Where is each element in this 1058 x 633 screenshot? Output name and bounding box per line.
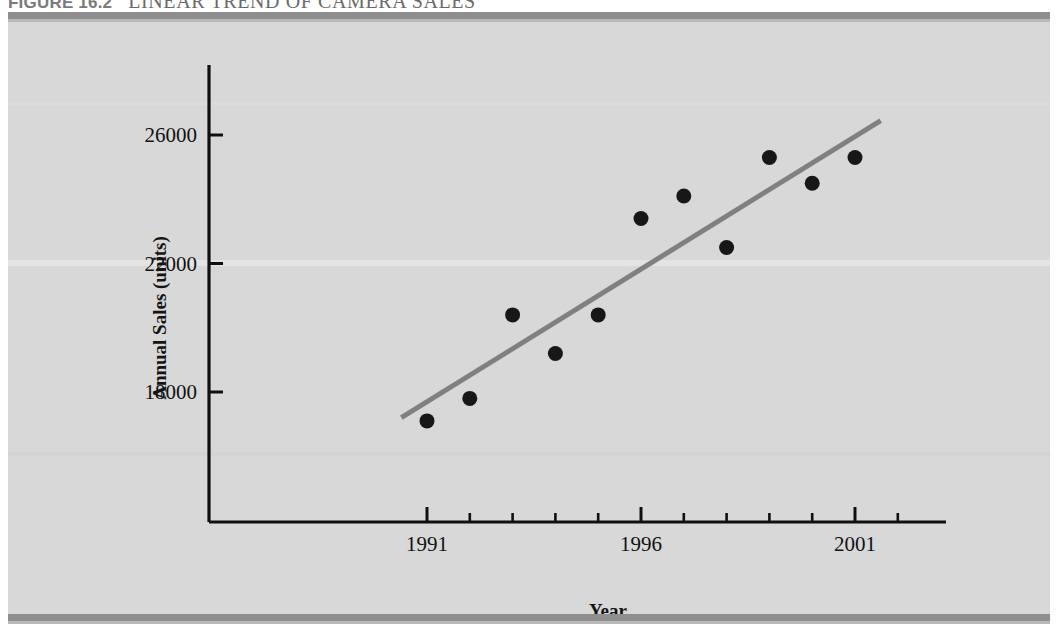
y-axis-ticks <box>209 135 223 392</box>
chart-panel: Annual Sales (units) Year 18000220002600… <box>8 22 1050 614</box>
top-rule <box>8 12 1050 19</box>
data-point <box>420 413 435 428</box>
data-point <box>462 391 477 406</box>
x-axis-major-ticks <box>427 507 855 522</box>
data-point <box>676 189 691 204</box>
data-point <box>591 307 606 322</box>
bottom-rule <box>8 614 1050 621</box>
y-axis-tick-label: 18000 <box>145 380 198 405</box>
data-point <box>634 211 649 226</box>
figure-page: FIGURE 16.2LINEAR TREND OF CAMERA SALES … <box>0 0 1058 633</box>
figure-title: LINEAR TREND OF CAMERA SALES <box>128 0 476 12</box>
y-axis-tick-label: 26000 <box>145 123 198 148</box>
figure-number: FIGURE 16.2 <box>8 0 112 12</box>
data-point <box>505 307 520 322</box>
data-point <box>548 346 563 361</box>
figure-caption: FIGURE 16.2LINEAR TREND OF CAMERA SALES <box>0 0 1058 12</box>
data-point <box>762 150 777 165</box>
data-point <box>805 176 820 191</box>
bottom-rule-shadow <box>8 621 1050 624</box>
data-point-group <box>420 150 863 428</box>
trend-line <box>401 121 880 418</box>
x-axis-tick-label: 1991 <box>406 532 448 557</box>
x-axis-tick-label: 1996 <box>620 532 662 557</box>
data-point <box>719 240 734 255</box>
data-point <box>848 150 863 165</box>
x-axis-tick-label: 2001 <box>834 532 876 557</box>
y-axis-tick-label: 22000 <box>145 251 198 276</box>
